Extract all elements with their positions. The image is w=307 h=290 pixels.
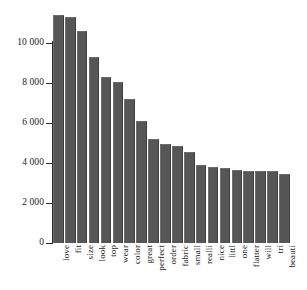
x-axis-tick-label-text: flatter [252,245,261,267]
bar [89,57,100,243]
x-axis-tick-label-text: small [193,245,202,265]
bars-layer [53,0,291,243]
x-axis-tick-label-text: size [86,245,95,259]
x-axis-tick-label: order [169,245,178,265]
x-axis-tick-label: look [98,245,107,261]
y-axis-tick-label: 4 000 [22,158,44,168]
bar [267,171,278,243]
y-axis-tick-label: 0 [39,238,44,248]
x-axis-tick-label-text: wear [121,245,130,263]
y-axis-tick-label: 8 000 [22,78,44,88]
x-axis-tick-label: one [240,245,249,258]
bar [136,121,147,243]
bar [279,174,290,243]
bar [208,167,219,243]
x-axis-tick-label: small [193,245,202,265]
bar [113,82,124,243]
x-axis-tick-label-text: littl [228,245,237,258]
x-axis-tick-label-text: tri [276,245,285,253]
y-axis-tick [46,163,52,164]
y-axis-tick-label: 10 000 [17,38,44,48]
y-axis-tick [46,83,52,84]
x-axis-tick-label-text: order [169,245,178,265]
y-axis-tick [46,123,52,124]
bar [77,31,88,243]
bar [255,171,266,243]
bar [243,171,254,243]
x-axis-tick-label: love [62,245,71,261]
x-axis-tick-label-text: color [133,245,142,264]
x-axis-tick-label-text: perfect [157,245,166,271]
x-axis-tick-label: size [86,245,95,259]
bar [101,77,112,243]
x-axis-tick-label: tri [276,245,285,253]
y-axis-tick [46,243,52,244]
x-axis-tick-label-text: look [98,245,107,261]
x-axis-tick-label-text: beauti [288,245,297,268]
x-axis-tick-label: perfect [157,245,166,271]
x-axis-tick-label: littl [228,245,237,258]
y-axis-tick [46,43,52,44]
bar [172,146,183,243]
bar [160,144,171,243]
x-axis-tick-label: will [264,245,273,259]
y-axis-tick-label: 6 000 [22,118,44,128]
bar [232,170,243,243]
x-axis-tick-label: fabric [181,245,190,267]
x-axis-tick-label-text: one [240,245,249,258]
x-axis-tick-label-text: realli [205,245,214,264]
x-axis-tick-label: realli [205,245,214,264]
x-axis-tick-label: great [145,245,154,264]
x-axis-tick-label-text: fabric [181,245,190,267]
bar [148,139,159,243]
x-axis-tick-label: top [109,245,118,257]
y-axis-tick [46,203,52,204]
bar [65,17,76,243]
bar-chart: 02 0004 0006 0008 00010 000 lovefitsizel… [0,0,307,290]
x-axis-tick-label: beauti [288,245,297,268]
bar [124,99,135,243]
x-axis-tick-label: wear [121,245,130,263]
x-axis-labels: lovefitsizelooktopwearcolorgreatperfecto… [53,245,291,290]
bar [53,15,64,243]
x-axis-tick-label-text: top [109,245,118,257]
x-axis-tick-label-text: fit [74,245,83,253]
bar [184,152,195,243]
x-axis-tick-label-text: great [145,245,154,264]
x-axis-tick-label: color [133,245,142,264]
y-axis-tick-label: 2 000 [22,198,44,208]
x-axis-tick-label: nice [217,245,226,260]
x-axis-tick-label-text: nice [217,245,226,260]
bar [196,165,207,243]
x-axis-tick-label-text: will [264,245,273,259]
x-axis-tick-label-text: love [62,245,71,261]
bar [220,168,231,243]
x-axis-tick-label: fit [74,245,83,253]
x-axis-tick-label: flatter [252,245,261,267]
